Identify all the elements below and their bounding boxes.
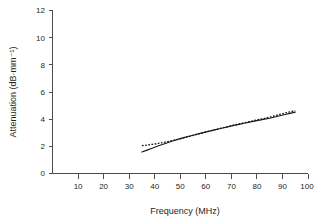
x-tick-label: 30 bbox=[125, 182, 134, 191]
x-tick-label: 80 bbox=[252, 182, 261, 191]
chart-canvas: 0 2 4 6 8 10 12 10 20 30 40 50 bbox=[0, 0, 323, 224]
y-axis-ticks bbox=[49, 11, 53, 174]
y-tick-label: 0 bbox=[41, 169, 46, 178]
y-tick-label: 8 bbox=[41, 61, 46, 70]
y-tick-label: 12 bbox=[36, 6, 45, 15]
y-axis-title: Attenuation (dB·mm⁻¹) bbox=[8, 46, 18, 137]
series-line-measured-attenuation-solid bbox=[142, 112, 295, 152]
y-axis-tick-labels: 0 2 4 6 8 10 12 bbox=[36, 6, 45, 178]
x-axis-ticks bbox=[78, 174, 308, 179]
y-tick-label: 2 bbox=[41, 142, 46, 151]
x-tick-label: 10 bbox=[74, 182, 83, 191]
x-tick-label: 70 bbox=[227, 182, 236, 191]
x-tick-label: 100 bbox=[300, 182, 314, 191]
x-axis-tick-labels: 10 20 30 40 50 60 70 80 90 100 bbox=[74, 182, 315, 191]
x-tick-label: 20 bbox=[99, 182, 108, 191]
x-axis-title: Frequency (MHz) bbox=[150, 206, 220, 216]
x-tick-label: 40 bbox=[150, 182, 159, 191]
series-line-model-fit-dotted bbox=[142, 111, 295, 146]
y-tick-label: 10 bbox=[36, 34, 45, 43]
x-tick-label: 90 bbox=[278, 182, 287, 191]
x-tick-label: 50 bbox=[176, 182, 185, 191]
y-tick-label: 4 bbox=[41, 115, 46, 124]
attenuation-frequency-chart: 0 2 4 6 8 10 12 10 20 30 40 50 bbox=[0, 0, 323, 224]
y-tick-label: 6 bbox=[41, 88, 46, 97]
x-tick-label: 60 bbox=[201, 182, 210, 191]
